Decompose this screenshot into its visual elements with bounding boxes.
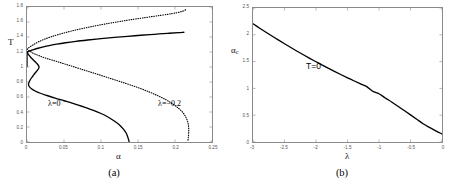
- panel-caption-a: (a): [0, 168, 228, 179]
- series-path: [253, 24, 442, 134]
- y-tick-label: 0: [6, 141, 23, 146]
- curve-canvas-b: [253, 8, 442, 142]
- series-path: [27, 32, 184, 52]
- y-tick-label: 0.5: [232, 114, 249, 119]
- panel-a: T α 00.050.10.150.20.25 00.20.40.60.811.…: [0, 0, 228, 188]
- y-tick-label: 0.2: [6, 125, 23, 130]
- y-tick-label: 0.4: [6, 110, 23, 115]
- y-tick-label: 1.2: [6, 49, 23, 54]
- plot-area-a: [26, 6, 213, 143]
- y-tick-label: 0.8: [6, 80, 23, 85]
- curves-a: [27, 7, 212, 142]
- x-tick-label: -2: [314, 146, 318, 151]
- y-tick-label: 1: [6, 65, 23, 70]
- x-axis-label-a: α: [116, 152, 121, 161]
- x-tick-label: -1.5: [344, 146, 352, 151]
- curve-canvas-a: [27, 7, 212, 142]
- y-tick-label: 2.5: [232, 5, 249, 10]
- x-tick-label: -0.5: [407, 146, 415, 151]
- x-tick-label: -1: [377, 146, 381, 151]
- x-tick-label: 0: [442, 146, 445, 151]
- y-tick-label: 0: [232, 141, 249, 146]
- x-tick-label: -3: [250, 146, 254, 151]
- panel-caption-b: (b): [228, 168, 456, 179]
- y-tick-label: 1.6: [6, 19, 23, 24]
- y-axis-label-a: T: [8, 38, 14, 47]
- y-tick-label: 0.6: [6, 95, 23, 100]
- y-tick-label: 1.4: [6, 34, 23, 39]
- x-tick-label: 0.25: [209, 146, 218, 151]
- y-tick-label: 1.8: [6, 4, 23, 9]
- tick-marks-b: [253, 8, 442, 142]
- series-path: [27, 49, 189, 140]
- x-tick-label: 0.2: [172, 146, 178, 151]
- series-path: [27, 9, 186, 49]
- x-axis-label-b: λ: [345, 152, 349, 161]
- tick-marks-a: [27, 7, 212, 142]
- x-tick-label: 0.1: [98, 146, 104, 151]
- curve-label-lambda-minus-02: λ=−0.2: [158, 100, 181, 108]
- y-tick-label: 2: [232, 32, 249, 37]
- x-tick-label: 0.05: [59, 146, 68, 151]
- figure-container: T α 00.050.10.150.20.25 00.20.40.60.811.…: [0, 0, 456, 188]
- plot-area-b: [252, 7, 443, 143]
- x-tick-label: 0: [25, 146, 28, 151]
- y-tick-label: 1: [232, 86, 249, 91]
- x-tick-label: -2.5: [280, 146, 288, 151]
- y-axis-label-b-subscript: c: [236, 49, 239, 55]
- y-tick-label: 1.5: [232, 59, 249, 64]
- curves-b: [253, 8, 442, 142]
- series-path: [27, 52, 129, 142]
- curve-label-lambda-0: λ=0: [48, 100, 60, 108]
- x-tick-label: 0.15: [134, 146, 143, 151]
- y-axis-label-b: αc: [231, 46, 238, 55]
- panel-b: αc λ -3-2.5-2-1.5-1-0.50 00.511.522.5 T=…: [228, 0, 456, 188]
- curve-label-t-equals-0: T=0: [306, 62, 321, 71]
